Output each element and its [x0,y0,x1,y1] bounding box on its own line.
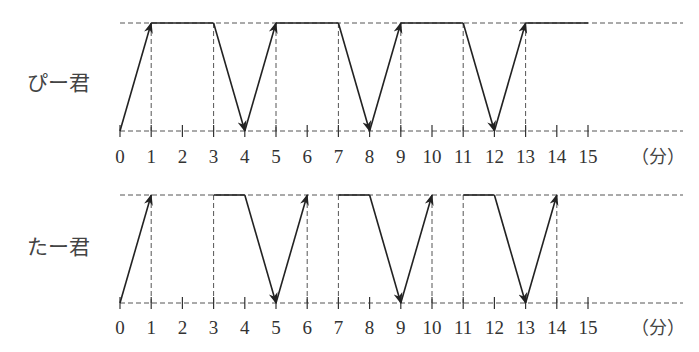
movement-arrow [401,195,432,303]
tick-label: 10 [423,317,442,338]
movement-arrow [370,195,401,303]
tick-label: 12 [485,146,504,167]
tick-label: 2 [178,317,188,338]
tick-label: 11 [454,317,472,338]
tick-label: 14 [547,146,567,167]
tick-label: 7 [334,146,344,167]
tick-label: 11 [454,146,472,167]
timeline-diagram: 0123456789101112131415（分）ぴー君012345678910… [0,0,699,352]
tick-label: 1 [146,146,156,167]
tick-label: 3 [209,317,219,338]
movement-arrow [245,23,276,131]
tick-label: 0 [115,146,125,167]
tick-label: 2 [178,146,188,167]
tick-label: 13 [516,317,535,338]
tick-label: 4 [240,146,250,167]
movement-arrow [494,23,525,131]
tick-label: 15 [579,146,598,167]
tick-label: 12 [485,317,504,338]
tick-label: 3 [209,146,219,167]
row-name-label: たー君 [27,235,90,259]
movement-arrow [463,23,494,131]
tick-label: 1 [146,317,156,338]
movement-arrow [276,195,307,303]
movement-arrow [370,23,401,131]
tick-label: 0 [115,317,125,338]
unit-label: （分） [631,146,685,167]
tick-label: 5 [271,317,281,338]
tick-label: 6 [302,317,312,338]
movement-arrow [120,23,151,131]
unit-label: （分） [631,317,685,338]
tick-label: 10 [423,146,442,167]
movement-arrow [526,195,557,303]
movement-arrow [214,23,245,131]
movement-arrow [120,195,151,303]
movement-arrow [245,195,276,303]
tick-label: 6 [302,146,312,167]
tick-label: 15 [579,317,598,338]
movement-arrow [338,23,369,131]
tick-label: 8 [365,146,375,167]
row-name-label: ぴー君 [27,71,90,95]
tick-label: 4 [240,317,250,338]
tick-label: 9 [396,146,406,167]
tick-label: 13 [516,146,535,167]
tick-label: 8 [365,317,375,338]
tick-label: 7 [334,317,344,338]
tick-label: 9 [396,317,406,338]
tick-label: 5 [271,146,281,167]
movement-arrow [494,195,525,303]
tick-label: 14 [547,317,567,338]
